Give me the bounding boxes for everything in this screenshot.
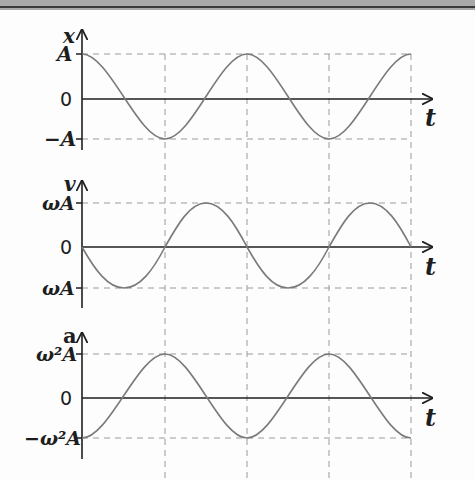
tick-zero: 0 xyxy=(60,387,72,409)
x-axis-label: t xyxy=(425,103,436,132)
grid-lines xyxy=(82,54,411,481)
x-axis-label: t xyxy=(425,403,436,432)
tick-top: ω²A xyxy=(36,343,77,365)
tick-zero: 0 xyxy=(60,88,72,110)
panel-displacement: x A 0 −A t xyxy=(44,24,436,481)
shm-graphs-figure: x A 0 −A t v ωA 0 ωA t xyxy=(0,0,475,481)
charts-svg: x A 0 −A t v ωA 0 ωA t xyxy=(0,0,475,481)
tick-top: A xyxy=(55,42,73,66)
panel-acceleration: a ω²A 0 −ω²A t xyxy=(24,323,436,459)
tick-zero: 0 xyxy=(60,236,72,258)
tick-bottom: −ω²A xyxy=(24,427,81,449)
tick-bottom: −A xyxy=(44,127,76,151)
x-axis-label: t xyxy=(425,252,436,281)
tick-top: ωA xyxy=(42,192,75,214)
tick-bottom: ωA xyxy=(42,277,75,299)
panel-velocity: v ωA 0 ωA t xyxy=(42,172,436,308)
